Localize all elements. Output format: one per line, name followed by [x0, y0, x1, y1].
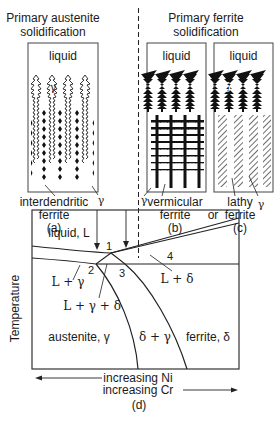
panel-a-gamma-label: γ [48, 81, 58, 94]
panel-c-caption: (c) [220, 222, 260, 235]
region-ferrite: ferrite, δ [180, 331, 236, 344]
region-l-delta: L + δ [160, 273, 194, 286]
panel-b-delta-label: δ [164, 82, 176, 95]
region-l-gamma: L + γ [50, 276, 86, 289]
panel-a-gamma-pointer: γ [96, 194, 106, 207]
temperature-axis-label: Temperature [9, 269, 22, 349]
region-l-gamma-delta: L + γ + δ [62, 300, 122, 313]
ferrite-title-line2: solidification [146, 26, 266, 39]
panel-b-liquid-label: liquid [147, 50, 206, 63]
panel-d-caption: (d) [124, 399, 154, 412]
ferrite-title-line1: Primary ferrite [146, 12, 266, 25]
point-3: 3 [118, 267, 126, 280]
x-axis-label-cr: increasing Cr [100, 384, 176, 397]
point-4: 4 [166, 250, 174, 263]
region-liquid: liquid, L [44, 227, 94, 240]
region-austenite: austenite, γ [44, 331, 114, 344]
austenite-title-line1: Primary austenite [0, 12, 106, 25]
panel-b-caption: (b) [140, 222, 210, 235]
panel-c-delta-label: δ [221, 82, 233, 95]
panel-c-liquid-label: liquid [214, 50, 273, 63]
austenite-title-line2: solidification [0, 26, 106, 39]
point-1: 1 [105, 240, 113, 253]
panel-a-liquid-label: liquid [28, 50, 98, 63]
y-axis-label-wrap: Temperature [5, 280, 19, 340]
point-2: 2 [87, 264, 95, 277]
region-delta-gamma: δ + γ [137, 331, 173, 344]
